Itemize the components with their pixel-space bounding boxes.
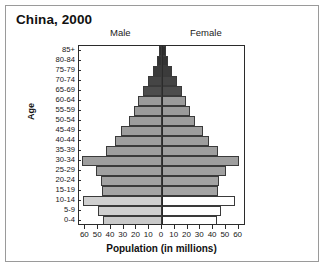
y-axis-tick-mark [78, 150, 81, 151]
x-axis-tick-mark [148, 225, 149, 229]
x-axis-tick-mark [225, 225, 226, 229]
population-pyramid-figure: China, 2000 Male Female Age 85+80-8475-7… [0, 0, 324, 269]
y-axis-tick-mark [78, 220, 81, 221]
female-bar [162, 156, 239, 166]
x-axis-tick-mark [123, 225, 124, 229]
female-bar [162, 176, 219, 186]
male-bar [83, 196, 162, 206]
y-axis-tick-mark [78, 130, 81, 131]
x-axis-tick-mark [161, 225, 162, 229]
male-bar [153, 66, 162, 76]
y-axis-tick-mark [78, 160, 81, 161]
female-bar [162, 66, 172, 76]
female-column-label: Female [190, 27, 222, 38]
male-bar [138, 96, 162, 106]
male-bar [106, 146, 162, 156]
y-axis-tick-labels: 85+80-8475-7970-7465-6960-6455-5950-5445… [0, 45, 75, 225]
male-bar [115, 136, 162, 146]
y-axis-tick-label: 40-44 [1, 135, 75, 144]
y-axis-tick-label: 50-54 [1, 115, 75, 124]
male-bar [103, 216, 162, 225]
y-axis-tick-mark [78, 170, 81, 171]
y-axis-tick-mark [78, 70, 81, 71]
plot-area [78, 45, 245, 225]
y-axis-tick-label: 65-69 [1, 85, 75, 94]
y-axis-tick-label: 55-59 [1, 105, 75, 114]
y-axis-tick-label: 75-79 [1, 65, 75, 74]
female-bar [162, 166, 226, 176]
x-axis-tick-label: 60 [226, 230, 250, 239]
x-axis-tick-mark [135, 225, 136, 229]
female-bar [162, 196, 235, 206]
female-bar [162, 146, 218, 156]
y-axis-tick-label: 70-74 [1, 75, 75, 84]
male-bar [134, 106, 162, 116]
y-axis-tick-mark [78, 200, 81, 201]
female-bar [162, 96, 186, 106]
y-axis-tick-label: 35-39 [1, 145, 75, 154]
female-bar [162, 136, 209, 146]
female-bar [162, 206, 221, 216]
y-axis-tick-label: 45-49 [1, 125, 75, 134]
y-axis-tick-mark [78, 110, 81, 111]
y-axis-tick-label: 80-84 [1, 55, 75, 64]
y-axis-tick-label: 60-64 [1, 95, 75, 104]
female-bar [162, 186, 218, 196]
page-title: China, 2000 [16, 12, 92, 27]
female-bar [162, 76, 177, 86]
male-bar [96, 166, 162, 176]
y-axis-tick-mark [78, 180, 81, 181]
y-axis-tick-mark [78, 140, 81, 141]
male-bar [148, 76, 162, 86]
y-axis-tick-label: 10-14 [1, 195, 75, 204]
y-axis-tick-label: 20-24 [1, 175, 75, 184]
y-axis-tick-mark [78, 50, 81, 51]
male-column-label: Male [110, 27, 131, 38]
x-axis-tick-mark [110, 225, 111, 229]
y-axis-tick-mark [78, 120, 81, 121]
female-bar [162, 216, 217, 225]
x-axis-tick-mark [84, 225, 85, 229]
x-axis-tick-mark [187, 225, 188, 229]
x-axis-tick-mark [212, 225, 213, 229]
y-axis-tick-label: 5-9 [1, 205, 75, 214]
female-bar [162, 86, 182, 96]
y-axis-tick-mark [78, 90, 81, 91]
male-bar [98, 206, 162, 216]
y-axis-tick-label: 0-4 [1, 215, 75, 224]
male-bar [129, 116, 162, 126]
y-axis-tick-mark [78, 80, 81, 81]
y-axis-tick-mark [78, 60, 81, 61]
male-bar [143, 86, 162, 96]
x-axis-tick-mark [174, 225, 175, 229]
x-axis-tick-mark [199, 225, 200, 229]
male-bar [102, 186, 162, 196]
y-axis-tick-label: 30-34 [1, 155, 75, 164]
y-axis-tick-mark [78, 210, 81, 211]
female-bar [162, 106, 190, 116]
male-bar [82, 156, 162, 166]
male-bar [101, 176, 162, 186]
y-axis-tick-mark [78, 190, 81, 191]
y-axis-tick-label: 15-19 [1, 185, 75, 194]
female-bar [162, 126, 203, 136]
y-axis-tick-label: 85+ [1, 45, 75, 54]
female-bar [162, 116, 195, 126]
male-bar [121, 126, 162, 136]
y-axis-tick-label: 25-29 [1, 165, 75, 174]
x-axis-tick-mark [97, 225, 98, 229]
y-axis-tick-mark [78, 100, 81, 101]
x-axis-title: Population (in millions) [78, 243, 245, 254]
zero-axis-line [162, 46, 163, 224]
x-axis-tick-mark [238, 225, 239, 229]
